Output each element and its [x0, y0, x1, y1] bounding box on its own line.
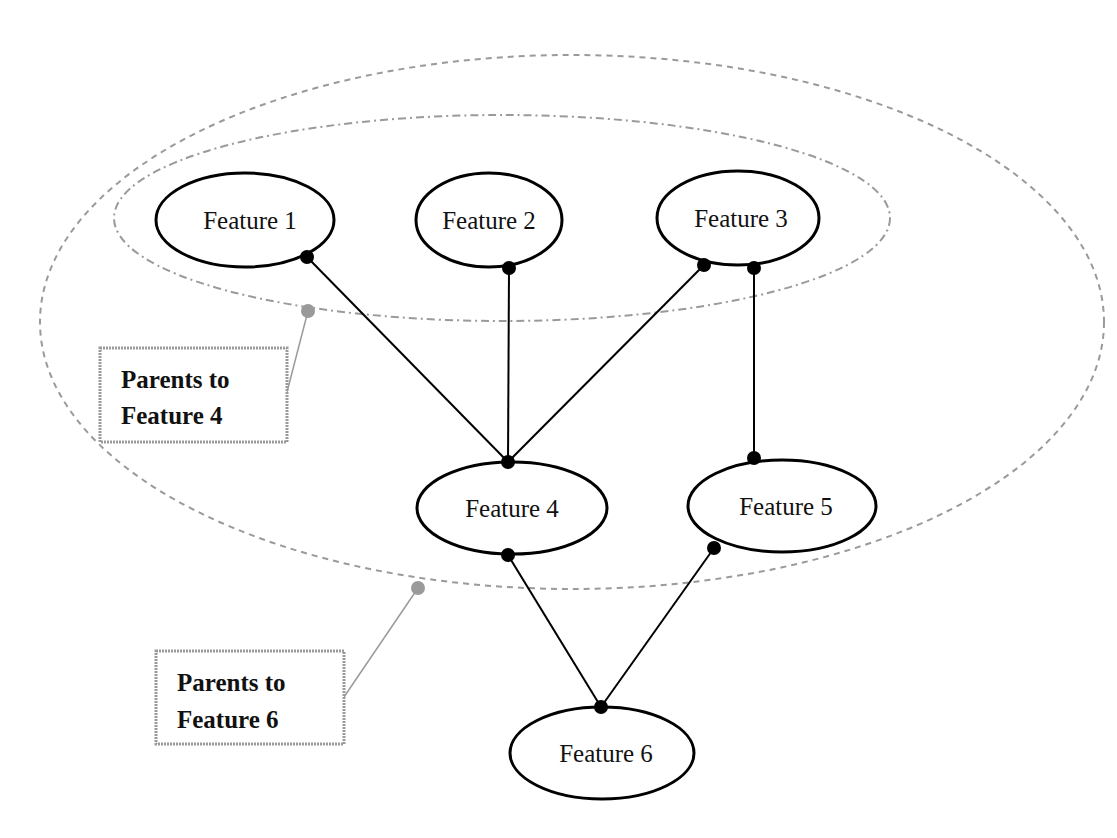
node-label: Feature 1 [203, 207, 297, 234]
edge-feature1-feature4 [307, 257, 508, 462]
feature-dependency-diagram: Feature 1 Feature 2 Feature 3 Feature 4 … [0, 0, 1117, 838]
node-label: Feature 4 [465, 495, 559, 522]
callout-anchor-dot [411, 581, 425, 595]
port-feature2-out [502, 261, 516, 275]
node-label: Feature 6 [559, 740, 653, 767]
callout-text-line-2: Feature 4 [121, 402, 223, 429]
port-feature3-out-a [697, 258, 711, 272]
port-feature4-in [501, 455, 515, 469]
port-feature5-out [707, 541, 721, 555]
node-feature-5[interactable]: Feature 5 [688, 460, 876, 552]
callout-leader-line [344, 588, 418, 697]
callout-text-line-1: Parents to [177, 669, 286, 696]
node-label: Feature 2 [442, 207, 536, 234]
port-feature6-in [594, 700, 608, 714]
port-feature1-out [300, 250, 314, 264]
port-feature4-out [501, 548, 515, 562]
node-label: Feature 5 [739, 493, 833, 520]
node-feature-2[interactable]: Feature 2 [416, 173, 562, 267]
edge-feature3-feature4 [508, 265, 704, 462]
callout-parents-to-feature-4: Parents to Feature 4 [100, 304, 315, 442]
node-feature-6[interactable]: Feature 6 [510, 707, 694, 799]
node-label: Feature 3 [694, 205, 788, 232]
edge-feature5-feature6 [601, 548, 714, 707]
edge-feature2-feature4 [508, 268, 509, 462]
callout-text-line-2: Feature 6 [177, 706, 279, 733]
callout-text-line-1: Parents to [121, 366, 230, 393]
callout-parents-to-feature-6: Parents to Feature 6 [156, 581, 425, 744]
node-feature-4[interactable]: Feature 4 [417, 462, 607, 554]
port-feature3-out-b [747, 261, 761, 275]
port-feature5-in [747, 451, 761, 465]
node-feature-3[interactable]: Feature 3 [657, 171, 819, 265]
callout-anchor-dot [301, 304, 315, 318]
edge-feature4-feature6 [508, 555, 601, 707]
callout-leader-line [287, 311, 308, 392]
